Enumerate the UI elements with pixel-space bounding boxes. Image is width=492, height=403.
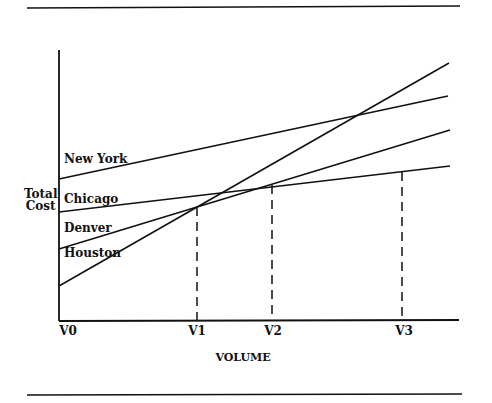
- x-axis-label: VOLUME: [215, 351, 270, 364]
- line-new-york: [59, 96, 448, 179]
- y-axis-label: Total Cost: [24, 188, 57, 212]
- x-axis: [59, 320, 459, 321]
- series-label-houston: Houston: [64, 247, 121, 259]
- bottom-rule: [27, 394, 462, 395]
- x-tick-v3: V3: [395, 324, 413, 338]
- series-label-chicago: Chicago: [64, 193, 118, 205]
- x-tick-v2: V2: [264, 324, 282, 338]
- line-denver: [59, 130, 450, 249]
- x-tick-v1: V1: [188, 324, 206, 338]
- top-rule: [27, 6, 460, 8]
- series-label-new-york: New York: [64, 153, 127, 165]
- y-axis-label-line2: Cost: [24, 200, 57, 212]
- x-tick-v0: V0: [59, 324, 77, 338]
- series-label-denver: Denver: [64, 222, 112, 234]
